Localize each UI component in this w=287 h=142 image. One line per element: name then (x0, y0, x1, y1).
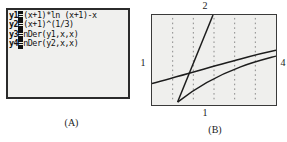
variable-name: y2 (9, 20, 18, 29)
expression-text: (x+1)*ln (x+1)-x (23, 11, 96, 20)
panel-a-caption: (A) (0, 117, 143, 128)
calculator-screen[interactable]: y1=(x+1)*ln (x+1)-x y2=(x+1)^(1/3) y3=nD… (6, 8, 130, 99)
calculator-line-list: y1=(x+1)*ln (x+1)-x y2=(x+1)^(1/3) y3=nD… (9, 11, 127, 49)
calculator-line[interactable]: y1=(x+1)*ln (x+1)-x (9, 11, 127, 20)
axis-label-right: 4 (277, 57, 287, 68)
calculator-line[interactable]: y3=nDer(y1,x,x) (9, 30, 127, 39)
panel-b: 2 1 1 4 (B) (143, 0, 287, 142)
variable-name: y3 (9, 30, 18, 39)
graph-plot-area[interactable] (151, 14, 277, 106)
calculator-line[interactable]: y2=(x+1)^(1/3) (9, 20, 127, 29)
expression-text: (x+1)^(1/3) (23, 20, 74, 29)
variable-name: y4 (9, 39, 18, 48)
graph-canvas (152, 15, 276, 105)
axis-label-left: 1 (137, 57, 149, 68)
axis-label-bottom: 1 (198, 107, 212, 118)
expression-text: nDer(y2,x,x) (23, 39, 78, 48)
axis-label-top: 2 (198, 0, 212, 11)
variable-name: y1 (9, 11, 18, 20)
panel-a: y1=(x+1)*ln (x+1)-x y2=(x+1)^(1/3) y3=nD… (0, 0, 143, 142)
calculator-line[interactable]: y4=nDer(y2,x,x) (9, 39, 127, 48)
expression-text: nDer(y1,x,x) (23, 30, 78, 39)
panel-b-caption: (B) (143, 124, 287, 135)
gridlines (173, 18, 256, 102)
